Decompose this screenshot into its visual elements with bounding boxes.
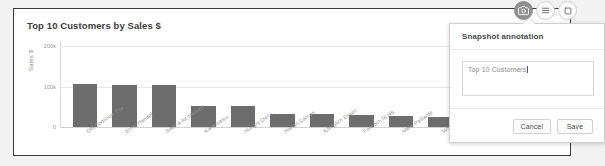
x-label-slot: Folk och fä HB (342, 128, 382, 156)
bar-slot (65, 42, 105, 127)
chart-toolbar (514, 1, 577, 20)
bar[interactable] (112, 85, 137, 127)
snapshot-button[interactable] (514, 1, 533, 20)
page-title: Top 10 Customers by Sales $ (27, 20, 161, 31)
x-label-slot: Mere Paillarde (381, 128, 421, 156)
x-label-slot: Hungry Owl ... (223, 128, 263, 156)
screen-root: Top 10 Customers by Sales $ Sales $ 200k… (0, 0, 605, 166)
popup-title: Snapshot annotation (462, 32, 543, 41)
y-axis-label: Sales $ (28, 50, 34, 71)
annotation-input-value: Top 10 Customers (468, 66, 526, 73)
camera-icon (518, 5, 529, 16)
popup-footer: Cancel Save (450, 108, 604, 144)
text-caret (527, 66, 528, 73)
x-label-slot: Save-a-lot Markets (144, 128, 184, 156)
y-tick-200k: 200k (44, 43, 56, 49)
cancel-button[interactable]: Cancel (513, 119, 551, 134)
expand-icon (563, 6, 573, 16)
x-label-slot: Hanari Carnes (263, 128, 303, 156)
expand-button[interactable] (558, 1, 577, 20)
annotation-input[interactable]: Top 10 Customers (462, 61, 594, 96)
x-label-slot: Königlich Essen (302, 128, 342, 156)
hamburger-icon (540, 5, 551, 16)
x-label-slot: Old Dominion Tire (65, 128, 105, 156)
y-tick-0: 0 (53, 124, 56, 130)
save-button[interactable]: Save (557, 119, 593, 134)
x-label-slot: Ernst Handel (105, 128, 145, 156)
y-tick-100k: 100k (44, 84, 56, 90)
menu-button[interactable] (536, 1, 555, 20)
bar[interactable] (152, 85, 177, 127)
snapshot-annotation-popup: Snapshot annotation Top 10 Customers Can… (449, 23, 605, 143)
popup-header: Snapshot annotation (450, 24, 604, 50)
x-label-slot: Kanematsu ... (184, 128, 224, 156)
bar[interactable] (73, 84, 98, 127)
